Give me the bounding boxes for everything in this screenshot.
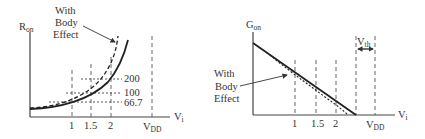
ron-level-label-66-7: 66.7: [124, 97, 142, 108]
ron-y-axis-label: Ron: [19, 21, 34, 34]
gon-plot: Gon Vi Vth 1 1.5 2 VDD With Body Effect: [214, 19, 408, 132]
diagram-canvas: Ron Vi 200 100 66.7 1 1.5 2 VDD With Bod…: [0, 0, 425, 139]
ron-curve-body-effect: [30, 36, 118, 108]
gon-annotation-arrow: [240, 75, 287, 86]
ron-tick-vdd: VDD: [143, 121, 162, 134]
gon-y-axis-label: Gon: [246, 19, 261, 32]
gon-annotation-line-1: With: [214, 68, 235, 79]
ron-level-label-200: 200: [124, 73, 140, 84]
ron-tick-1: 1: [69, 120, 74, 131]
ron-annotation-arrow: [83, 26, 115, 42]
ron-annotation-line-3: Effect: [53, 29, 79, 40]
gon-annotation-line-2: Body: [215, 81, 239, 92]
gon-x-axis-label: Vi: [398, 109, 408, 122]
gon-tick-2: 2: [333, 118, 338, 129]
ron-annotation-line-1: With: [55, 5, 76, 16]
ron-x-axis-label: Vi: [174, 111, 184, 124]
gon-tick-1-5: 1.5: [311, 118, 324, 129]
ron-curve: [30, 40, 128, 109]
ron-tick-2: 2: [108, 120, 113, 131]
ron-plot: Ron Vi 200 100 66.7 1 1.5 2 VDD With Bod…: [19, 5, 184, 134]
ron-tick-1-5: 1.5: [84, 120, 97, 131]
ron-annotation-line-2: Body: [55, 17, 79, 28]
gon-tick-vdd: VDD: [366, 119, 385, 132]
gon-tick-1: 1: [292, 118, 297, 129]
gon-annotation-line-3: Effect: [214, 93, 240, 104]
gon-vth-label: Vth: [357, 36, 371, 49]
